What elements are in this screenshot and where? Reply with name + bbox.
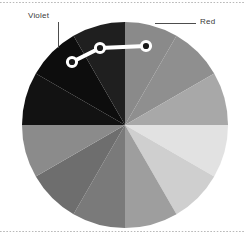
violet-annotation-label: Violet: [28, 11, 49, 21]
overlay-marker[interactable]: [141, 41, 150, 50]
pie-slices: [22, 22, 228, 228]
color-wheel: [0, 0, 244, 239]
pie-svg: [0, 0, 244, 239]
violet-leader-line: [58, 22, 59, 48]
figure-canvas: Violet Red: [0, 0, 244, 239]
overlay-marker[interactable]: [95, 43, 104, 52]
overlay-marker[interactable]: [67, 57, 76, 66]
red-leader-line: [155, 23, 196, 24]
red-annotation-label: Red: [200, 17, 215, 27]
